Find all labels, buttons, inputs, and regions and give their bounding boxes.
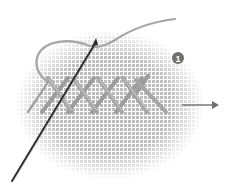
step-number: 1 [175, 54, 180, 64]
fabric-grid [0, 0, 228, 193]
step-badge: 1 [172, 52, 184, 64]
cross-stitch-illustration: 1 [0, 0, 228, 193]
